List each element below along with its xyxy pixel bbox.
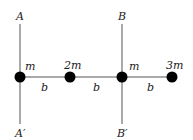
mass-2 xyxy=(65,72,76,83)
mass-4 xyxy=(167,72,178,83)
mass-diagram: A A′ B B′ m 2m m 3m b b b xyxy=(0,0,193,140)
mass-1-label: m xyxy=(25,60,35,73)
mass-3 xyxy=(117,72,128,83)
mass-1 xyxy=(15,72,26,83)
axis-a-top-label: A xyxy=(15,10,24,23)
mass-2-label: 2m xyxy=(63,59,81,72)
spacing-3-label: b xyxy=(147,81,154,94)
mass-4-label: 3m xyxy=(166,59,183,72)
axis-b-bottom-label: B′ xyxy=(116,127,128,140)
mass-3-label: m xyxy=(129,60,139,73)
spacing-2-label: b xyxy=(93,81,100,94)
spacing-1-label: b xyxy=(41,81,48,94)
axis-a-bottom-label: A′ xyxy=(14,127,26,140)
axis-b-top-label: B xyxy=(117,10,126,23)
